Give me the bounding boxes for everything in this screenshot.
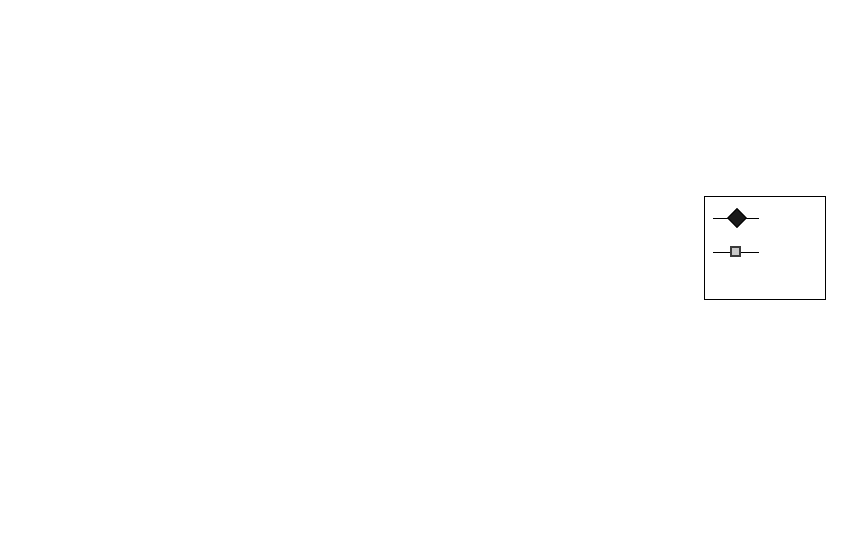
square-marker-icon	[730, 246, 741, 257]
legend-item-joint-senior	[713, 241, 765, 263]
legend-swatch-joint-senior	[713, 241, 759, 263]
line-chart	[0, 0, 842, 539]
legend-item-top	[713, 207, 765, 229]
legend-swatch-top	[713, 207, 759, 229]
diamond-marker-icon	[727, 208, 747, 228]
chart-root	[0, 0, 842, 539]
legend	[704, 196, 826, 300]
